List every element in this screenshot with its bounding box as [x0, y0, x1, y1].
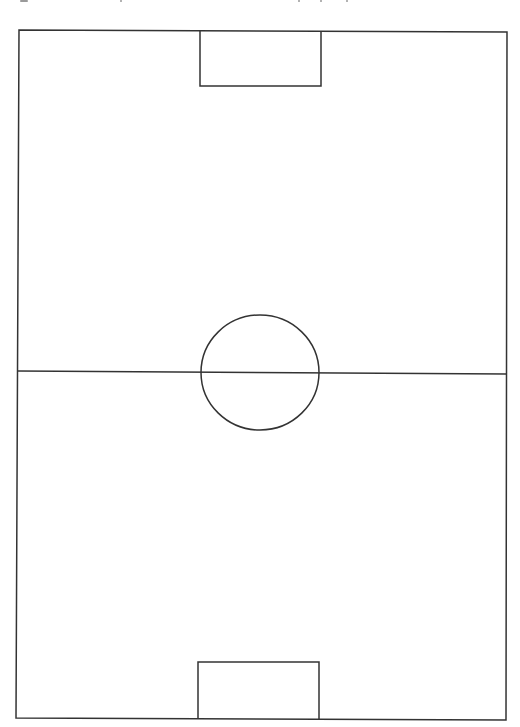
- bottom-goal-area: [198, 662, 319, 719]
- touchline-boundary: [16, 30, 507, 720]
- top-goal-area: [200, 31, 321, 86]
- halfway-line: [18, 371, 507, 374]
- soccer-pitch-diagram: [0, 0, 520, 727]
